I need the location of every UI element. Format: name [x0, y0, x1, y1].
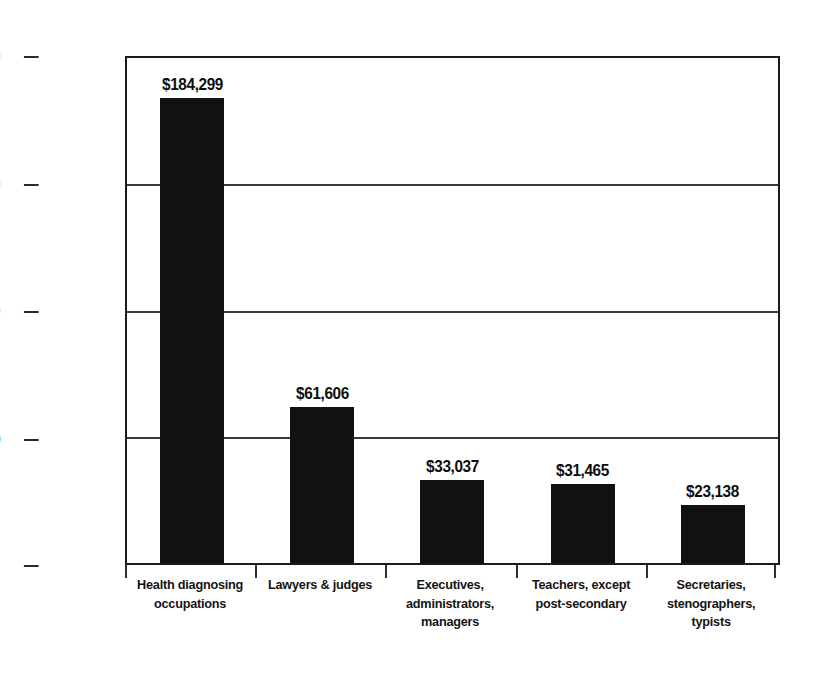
x-axis-category-line: typists — [650, 613, 772, 632]
bar-lawyers-judges[interactable] — [290, 407, 354, 563]
bar-value-label: $184,299 — [131, 75, 253, 94]
x-axis-category-line: stenographers, — [650, 595, 772, 614]
x-axis-category-line: post-secondary — [519, 595, 641, 614]
bar-secretaries-stenographers-typists[interactable] — [681, 505, 745, 563]
y-tick-dash-icon — [24, 565, 39, 567]
bar-value-label: $31,465 — [522, 461, 644, 480]
x-axis-category-line: managers — [389, 613, 511, 632]
bar-value-label: $61,606 — [261, 384, 383, 403]
x-axis-category-line: Executives, — [389, 576, 511, 595]
bar-value-label: $23,138 — [652, 482, 774, 501]
x-axis-category-executives-administrators-managers: Executives, administrators, managers — [389, 576, 511, 632]
y-axis: $200,000 $150,000 $100,000 $50,000 $0 — [0, 0, 125, 681]
bar-group-teachers-except-post-secondary[interactable]: $31,465 — [518, 58, 648, 563]
x-axis-category-line: occupations — [129, 595, 251, 614]
x-axis-category-lawyers-judges: Lawyers & judges — [259, 576, 381, 595]
bar-value-label: $33,037 — [392, 457, 514, 476]
bar-teachers-except-post-secondary[interactable] — [551, 484, 615, 563]
x-axis-category-line: Health diagnosing — [129, 576, 251, 595]
bar-executives-administrators-managers[interactable] — [420, 480, 484, 563]
x-axis-category-line: administrators, — [389, 595, 511, 614]
x-axis-category-teachers-except-post-secondary: Teachers, except post-secondary — [519, 576, 641, 613]
plot-area: $184,299 $61,606 $33,037 $31,465 $23,138 — [125, 56, 780, 565]
x-axis: Health diagnosing occupations Lawyers & … — [125, 576, 780, 676]
bar-group-executives-administrators-managers[interactable]: $33,037 — [387, 58, 517, 563]
y-tick-dash-icon — [24, 184, 39, 186]
y-tick-dash-icon — [24, 311, 39, 313]
y-tick-dash-icon — [24, 439, 39, 441]
bar-health-diagnosing-occupations[interactable] — [160, 98, 224, 563]
bar-chart-figure: $200,000 $150,000 $100,000 $50,000 $0 $1… — [0, 0, 817, 681]
cropped-title-remnant — [150, 0, 580, 8]
x-axis-category-line: Teachers, except — [519, 576, 641, 595]
x-axis-category-line: Secretaries, — [650, 576, 772, 595]
x-axis-category-secretaries-stenographers-typists: Secretaries, stenographers, typists — [650, 576, 772, 632]
x-axis-category-line: Lawyers & judges — [259, 576, 381, 595]
y-tick-dash-icon — [24, 56, 39, 58]
x-axis-category-health-diagnosing-occupations: Health diagnosing occupations — [129, 576, 251, 613]
bar-group-health-diagnosing-occupations[interactable]: $184,299 — [127, 58, 257, 563]
bar-group-lawyers-judges[interactable]: $61,606 — [257, 58, 387, 563]
bar-group-secretaries-stenographers-typists[interactable]: $23,138 — [648, 58, 778, 563]
